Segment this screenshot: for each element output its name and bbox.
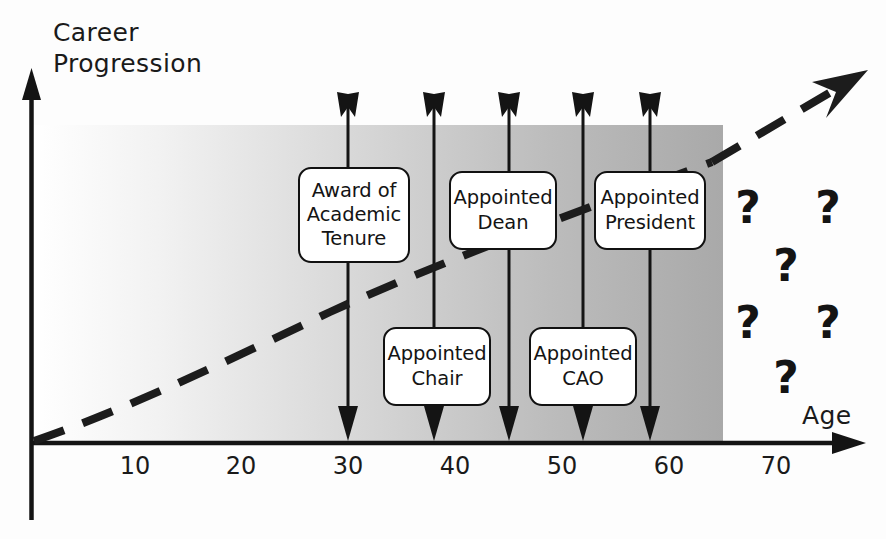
question-mark-icon: ?: [815, 182, 841, 233]
career-progression-figure: Career Progression Age 10203040506070 Aw…: [0, 0, 886, 539]
question-mark-icon: ?: [735, 182, 761, 233]
y-axis-label: Career Progression: [53, 18, 202, 79]
x-tick-label: 60: [654, 452, 685, 480]
x-tick-label: 20: [226, 452, 257, 480]
box-chair: Appointed Chair: [383, 327, 491, 406]
x-tick-label: 30: [333, 452, 364, 480]
x-tick-label: 40: [440, 452, 471, 480]
x-tick-label: 10: [120, 452, 151, 480]
question-mark-icon: ?: [773, 352, 799, 403]
box-tenure: Award of Academic Tenure: [298, 167, 410, 263]
question-mark-icon: ?: [735, 297, 761, 348]
question-mark-icon: ?: [815, 297, 841, 348]
x-axis-label: Age: [802, 401, 852, 432]
box-dean: Appointed Dean: [449, 171, 557, 250]
x-tick-label: 70: [761, 452, 792, 480]
x-tick-label: 50: [547, 452, 578, 480]
box-cao: Appointed CAO: [529, 327, 637, 406]
box-president: Appointed President: [594, 171, 706, 250]
question-mark-icon: ?: [773, 240, 799, 291]
